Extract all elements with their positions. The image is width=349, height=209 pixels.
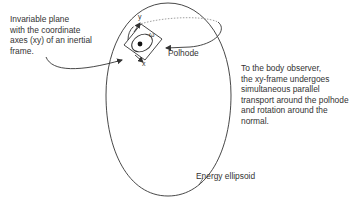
body-observer-note: To the body observer, the xy-frame under… bbox=[241, 63, 349, 127]
text-line: normal. bbox=[241, 116, 349, 127]
text-line: and rotation around the bbox=[241, 105, 349, 116]
energy-ellipsoid-label: Energy ellipsoid bbox=[196, 171, 255, 182]
polhode-dotted-path bbox=[133, 18, 218, 27]
polhode-path bbox=[166, 22, 221, 48]
invariable-plane-square bbox=[124, 24, 162, 60]
x-axis-label: x bbox=[142, 60, 146, 67]
text-line: Invariable plane bbox=[10, 14, 92, 25]
text-line: frame. bbox=[10, 46, 92, 57]
text-line: simultaneous parallel bbox=[241, 84, 349, 95]
text-line: transport around the polhode bbox=[241, 95, 349, 106]
text-line: with the coordinate bbox=[10, 25, 92, 36]
invariable-plane-label: Invariable plane with the coordinate axe… bbox=[10, 14, 92, 56]
energy-ellipsoid-outline bbox=[106, 3, 231, 196]
text-line: To the body observer, bbox=[241, 63, 349, 74]
polhode-label: Polhode bbox=[168, 48, 199, 59]
text-line: axes (xy) of an inertial bbox=[10, 35, 92, 46]
text-line: the xy-frame undergoes bbox=[241, 74, 349, 85]
y-axis-label: y bbox=[138, 13, 142, 20]
omega-label: ω bbox=[149, 31, 154, 38]
center-dot bbox=[138, 42, 143, 47]
